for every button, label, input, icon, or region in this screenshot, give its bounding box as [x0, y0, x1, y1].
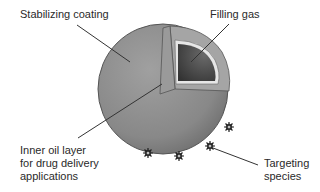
label-inner-oil-1: Inner oil layer: [20, 144, 86, 157]
label-filling-gas: Filling gas: [210, 8, 260, 21]
label-inner-oil-2: for drug delivery: [20, 157, 99, 170]
leader-targeting: [213, 148, 258, 165]
label-targeting-2: species: [264, 170, 301, 183]
label-inner-oil-3: applications: [20, 170, 78, 183]
label-stabilizing-coating: Stabilizing coating: [20, 8, 109, 21]
label-targeting-1: Targeting: [264, 157, 309, 170]
